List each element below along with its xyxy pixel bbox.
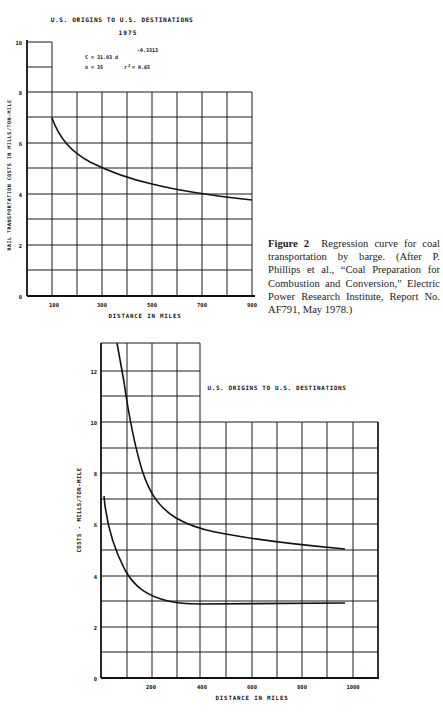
chart1-subtitle: 1975: [119, 29, 138, 36]
svg-text:0: 0: [94, 676, 97, 682]
svg-text:100: 100: [49, 302, 59, 308]
svg-text:8: 8: [94, 471, 97, 477]
chart1-y-tick-labels: 10 8 6 4 2 0: [15, 40, 22, 300]
svg-text:6: 6: [94, 522, 98, 528]
svg-text:4: 4: [19, 192, 23, 198]
svg-text:600: 600: [247, 684, 257, 690]
figure-label: Figure 2: [268, 238, 309, 249]
chart1-regression-equation: C = 31.93 d -0.3313 n = 35 r 2 = 0.65: [85, 47, 158, 70]
svg-text:2: 2: [94, 625, 97, 631]
svg-text:0: 0: [19, 294, 22, 300]
svg-text:200: 200: [146, 684, 156, 690]
figure-caption-text: Regression curve for coal transportation…: [268, 238, 440, 315]
figure-caption: Figure 2 Regression curve for coal trans…: [268, 237, 440, 316]
svg-text:300: 300: [97, 302, 107, 308]
svg-text:= 0.65: = 0.65: [132, 64, 150, 70]
svg-text:C = 31.93 d: C = 31.93 d: [85, 54, 118, 60]
chart2-upper-curve: [117, 343, 345, 549]
svg-text:-0.3313: -0.3313: [137, 47, 158, 53]
svg-text:1000: 1000: [346, 684, 359, 690]
figure-2-rail-cost-chart: 10 8 6 4 2 0 100 300 500 700 900 DISTANC…: [0, 0, 443, 712]
chart1-x-tick-labels: 100 300 500 700 900: [49, 302, 257, 308]
svg-text:700: 700: [197, 302, 207, 308]
svg-text:r: r: [124, 64, 127, 70]
chart1-title: U.S. ORIGINS TO U.S. DESTINATIONS: [51, 16, 194, 23]
chart2-x-label: DISTANCE IN MILES: [216, 695, 289, 701]
svg-text:2: 2: [128, 63, 131, 68]
svg-text:10: 10: [15, 40, 22, 46]
svg-text:400: 400: [197, 684, 207, 690]
svg-text:n = 35: n = 35: [85, 64, 103, 70]
svg-text:4: 4: [94, 574, 98, 580]
chart2-y-tick-labels: 12 10 8 6 4 2 0: [90, 369, 97, 682]
svg-text:2: 2: [19, 243, 22, 249]
chart1-x-label: DISTANCE IN MILES: [109, 313, 182, 319]
chart2-y-label: COSTS - MILLS/TON-MILE: [76, 467, 82, 552]
chart2-grid: [101, 343, 378, 678]
svg-text:6: 6: [19, 141, 23, 147]
svg-text:800: 800: [297, 684, 307, 690]
chart2-title: U.S. ORIGINS TO U.S. DESTINATIONS: [207, 384, 346, 391]
svg-text:900: 900: [247, 302, 257, 308]
svg-text:8: 8: [19, 90, 22, 96]
svg-text:500: 500: [147, 302, 157, 308]
svg-text:10: 10: [90, 420, 97, 426]
chart1-y-label: RAIL TRANSPORTATION COSTS IN MILLS/TON-M…: [6, 100, 12, 251]
svg-text:12: 12: [90, 369, 97, 375]
chart2-x-tick-labels: 200 400 600 800 1000: [146, 684, 360, 690]
chart1-grid: [27, 42, 252, 296]
